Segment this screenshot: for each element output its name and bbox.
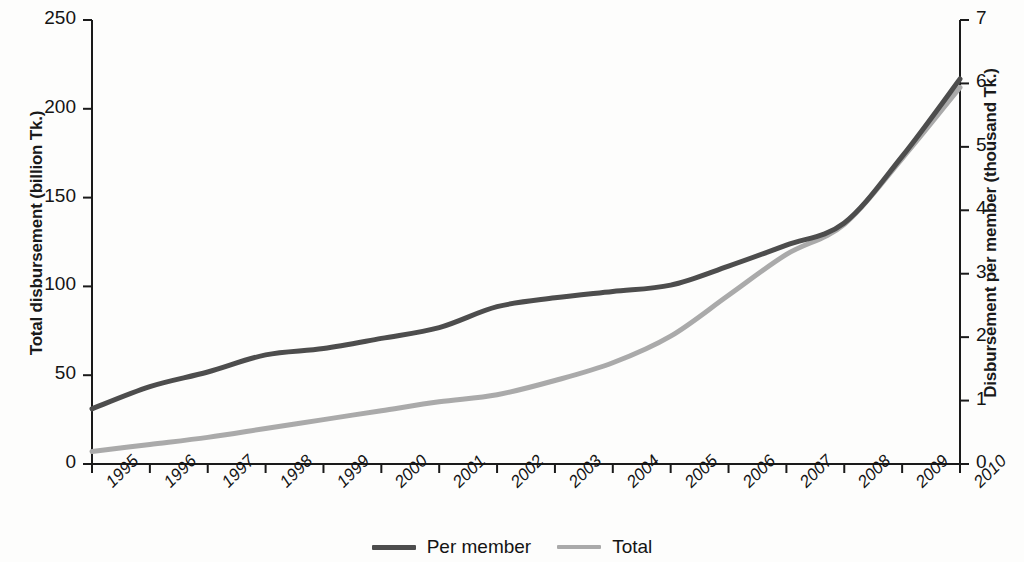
legend-item-total: Total xyxy=(557,536,652,558)
legend-label-total: Total xyxy=(612,536,652,558)
chart-legend: Per member Total xyxy=(0,536,1024,558)
legend-item-per-member: Per member xyxy=(372,536,532,558)
legend-swatch-total xyxy=(557,545,601,549)
right-tick-label: 2 xyxy=(976,324,1024,346)
left-tick-label: 50 xyxy=(16,362,76,384)
series-line-per-member xyxy=(92,79,960,409)
legend-swatch-per-member xyxy=(372,545,416,550)
right-tick-label: 3 xyxy=(976,261,1024,283)
left-tick-label: 250 xyxy=(16,7,76,29)
legend-label-per-member: Per member xyxy=(427,536,532,558)
right-tick-label: 1 xyxy=(976,388,1024,410)
chart-figure: Total disbursement (billion Tk.) Disburs… xyxy=(0,0,1024,562)
right-tick-label: 5 xyxy=(976,134,1024,156)
left-tick-label: 200 xyxy=(16,96,76,118)
right-tick-label: 4 xyxy=(976,197,1024,219)
right-tick-label: 6 xyxy=(976,70,1024,92)
right-tick-label: 7 xyxy=(976,7,1024,29)
left-tick-label: 0 xyxy=(16,451,76,473)
left-axis-ticks xyxy=(83,20,92,464)
series-line-total xyxy=(92,87,960,451)
left-tick-label: 100 xyxy=(16,273,76,295)
axis-lines xyxy=(92,20,960,464)
left-tick-label: 150 xyxy=(16,185,76,207)
